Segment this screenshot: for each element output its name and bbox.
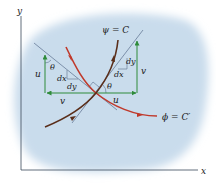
- left-horizontal-label: v: [60, 96, 65, 106]
- right-horizontal-label: u: [113, 95, 119, 105]
- left-vertical-label: u: [35, 69, 41, 79]
- left-angle-label: θ: [50, 63, 55, 72]
- potential-curve-label: ϕ = C′: [162, 112, 190, 122]
- y-axis-label: y: [16, 6, 23, 16]
- stream-curve-label: ψ = C: [102, 25, 129, 35]
- left-dx-label: dx: [57, 74, 67, 83]
- left-dy-label: dy: [67, 82, 77, 91]
- right-angle-label: θ: [107, 82, 112, 91]
- diagram-canvas: y x ψ = C ϕ = C′ u v θ dx dy: [0, 0, 216, 183]
- right-vertical-label: v: [141, 66, 146, 76]
- right-dy-label: dy: [126, 57, 136, 66]
- x-axis-label: x: [201, 166, 206, 176]
- right-dx-label: dx: [114, 70, 124, 79]
